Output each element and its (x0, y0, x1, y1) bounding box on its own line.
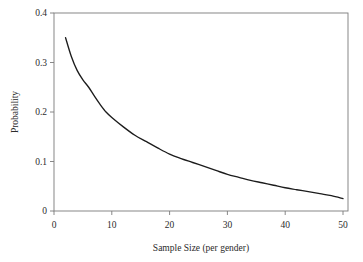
x-axis-ticks (54, 211, 343, 215)
y-axis-title: Probability (10, 91, 20, 133)
x-tick-label-1: 10 (107, 220, 117, 230)
y-tick-label-4: 0.4 (35, 8, 47, 18)
probability-curve (66, 38, 343, 199)
x-tick-label-5: 50 (338, 220, 348, 230)
y-tick-label-2: 0.2 (35, 107, 47, 117)
y-tick-label-3: 0.3 (35, 58, 47, 68)
y-axis-tick-labels: 00.10.20.30.4 (35, 8, 47, 216)
y-tick-label-0: 0 (42, 206, 47, 216)
x-tick-label-4: 40 (280, 220, 290, 230)
y-axis-ticks (50, 13, 54, 211)
y-tick-label-1: 0.1 (35, 157, 47, 167)
figure-container: 00.10.20.30.4 01020304050 Sample Size (p… (0, 0, 363, 262)
x-tick-label-0: 0 (52, 220, 57, 230)
x-tick-label-2: 20 (165, 220, 175, 230)
plot-frame (54, 13, 348, 211)
x-tick-label-3: 30 (223, 220, 233, 230)
x-axis-title: Sample Size (per gender) (153, 243, 249, 254)
x-axis-tick-labels: 01020304050 (52, 220, 348, 230)
chart-svg: 00.10.20.30.4 01020304050 Sample Size (p… (0, 0, 363, 262)
